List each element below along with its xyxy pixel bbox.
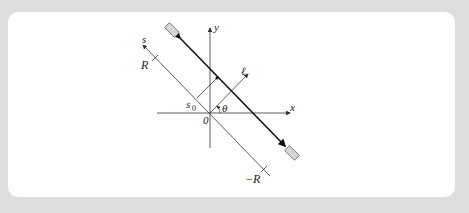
label-s0: s [186,98,190,110]
label-r-pos: R [140,58,149,72]
detector-top [165,23,180,38]
tick-r-neg [261,166,267,172]
beam-point [216,77,219,80]
label-origin: 0 [203,114,209,126]
offset-line [197,78,217,98]
detector-bottom [285,146,300,161]
label-t: ℓ [241,65,246,77]
theta-arc [217,106,220,113]
label-s: s [142,33,146,45]
label-y: y [213,21,219,33]
label-s0-sub: 0 [192,104,196,113]
label-theta: θ [222,102,228,114]
label-r-neg: −R [245,172,261,186]
beam-line [180,38,285,146]
projection-diagram: y x s ℓ θ 0 s 0 R −R [0,0,469,213]
label-x: x [289,101,295,113]
